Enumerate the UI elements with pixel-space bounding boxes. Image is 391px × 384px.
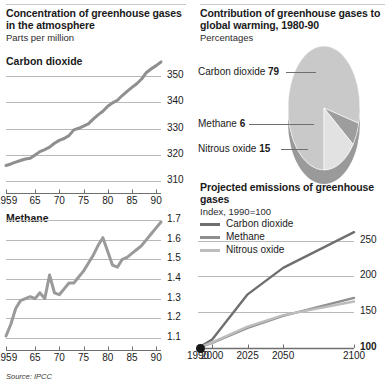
- top-rule-right: [200, 4, 385, 5]
- x-axis-tick-label: 70: [48, 352, 70, 363]
- x-axis-tick-label: 65: [24, 195, 46, 206]
- co2-concentration-chart: Carbon dioxide 3103203303403501959657075…: [6, 55, 190, 205]
- pie-leader-line: [281, 149, 308, 150]
- contribution-title: Contribution of greenhouse gases to glob…: [200, 8, 385, 31]
- pie-callout-value: 15: [259, 143, 270, 154]
- top-rule-left: [6, 4, 186, 5]
- methane-concentration-plot-area: [6, 212, 190, 364]
- y-axis-tick-label: 330: [167, 122, 184, 133]
- x-axis-tick-label: 85: [121, 195, 143, 206]
- x-axis-tick-label: 2025: [233, 350, 263, 361]
- legend-swatch: [200, 236, 220, 239]
- pie-leader-line: [249, 124, 314, 125]
- x-axis-tick-label: 2050: [268, 350, 298, 361]
- pie-plot-area: [196, 38, 388, 180]
- x-axis-tick-label: 90: [145, 352, 167, 363]
- series-line: [198, 302, 354, 348]
- y-axis-tick-label: 150: [360, 305, 377, 316]
- y-axis-tick-label: 340: [167, 95, 184, 106]
- methane-concentration-chart: Methane 1.11.21.31.41.51.61.719596570758…: [6, 212, 190, 364]
- y-axis-tick-label: 310: [167, 174, 184, 185]
- y-axis-tick-label: 1.7: [167, 213, 181, 224]
- legend-label: Carbon dioxide: [226, 218, 293, 229]
- concentration-subtitle: Parts per million: [6, 32, 190, 43]
- pie-callout-label: Nitrous oxide: [198, 143, 256, 154]
- legend-item-carbon-dioxide: Carbon dioxide: [200, 218, 310, 229]
- projection-title: Projected emissions of greenhouse gases: [200, 182, 385, 205]
- projection-subtitle: Index, 1990=100: [200, 206, 385, 217]
- x-axis-tick-label: 90: [145, 195, 167, 206]
- legend-label: Nitrous oxide: [226, 244, 284, 255]
- contribution-pie-chart: Carbon dioxide 79Methane 6Nitrous oxide …: [196, 38, 388, 180]
- legend-swatch: [200, 223, 220, 226]
- y-axis-tick-label: 320: [167, 148, 184, 159]
- projection-legend: Carbon dioxideMethaneNitrous oxide: [200, 218, 310, 257]
- origin-marker: [196, 344, 205, 353]
- x-axis-tick-label: 65: [24, 352, 46, 363]
- legend-swatch: [200, 249, 220, 252]
- y-axis-tick-label: 200: [360, 269, 377, 280]
- pie-callout-value: 79: [268, 66, 279, 77]
- legend-item-methane: Methane: [200, 231, 310, 242]
- projected-emissions-chart: 10015020025019902000202520502100 Carbon …: [196, 218, 388, 378]
- projection-header: Projected emissions of greenhouse gases …: [200, 182, 385, 217]
- x-axis-tick-label: 70: [48, 195, 70, 206]
- legend-item-nitrous-oxide: Nitrous oxide: [200, 244, 310, 255]
- y-axis-tick-label: 1.6: [167, 233, 181, 244]
- y-axis-tick-label: 1.5: [167, 252, 181, 263]
- source-note: Source: IPCC: [6, 372, 52, 381]
- infographic-page: Concentration of greenhouse gases in the…: [0, 0, 391, 384]
- x-axis-tick-label: 75: [73, 195, 95, 206]
- x-axis-tick-label: 75: [73, 352, 95, 363]
- x-axis-tick-label: 1959: [0, 352, 17, 363]
- pie-callout-carbon-dioxide: Carbon dioxide 79: [198, 66, 279, 77]
- pie-callout-nitrous-oxide: Nitrous oxide 15: [198, 143, 270, 154]
- pie-leader-line: [286, 72, 316, 73]
- y-axis-tick-label: 1.3: [167, 292, 181, 303]
- pie-callout-label: Carbon dioxide: [198, 66, 265, 77]
- x-axis-tick-label: 80: [97, 195, 119, 206]
- concentration-title: Concentration of greenhouse gases in the…: [6, 8, 190, 31]
- series-line: [6, 62, 161, 166]
- pie-callout-value: 6: [240, 118, 246, 129]
- x-axis-tick-label: 85: [121, 352, 143, 363]
- y-axis-tick-label: 1.2: [167, 311, 181, 322]
- y-axis-tick-label: 1.1: [167, 331, 181, 342]
- x-axis-tick-label: 2100: [339, 350, 369, 361]
- x-axis-tick-label: 1959: [0, 195, 17, 206]
- left-column: Concentration of greenhouse gases in the…: [6, 8, 190, 43]
- y-axis-tick-label: 250: [360, 234, 377, 245]
- pie-callout-methane: Methane 6: [198, 118, 245, 129]
- legend-label: Methane: [226, 231, 265, 242]
- y-axis-tick-label: 350: [167, 69, 184, 80]
- co2-concentration-plot-area: [6, 55, 190, 205]
- y-axis-tick-label: 1.4: [167, 272, 181, 283]
- x-axis-tick-label: 80: [97, 352, 119, 363]
- pie-callout-label: Methane: [198, 118, 237, 129]
